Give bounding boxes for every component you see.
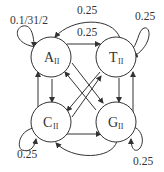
label-a-self: 0.1/31/2 xyxy=(10,14,48,26)
node-a: A II xyxy=(31,37,71,77)
node-t: T II xyxy=(96,37,136,77)
node-c-letter: C xyxy=(43,115,52,130)
label-g-self: 0.25 xyxy=(133,155,153,167)
node-a-subscript: II xyxy=(54,57,60,66)
state-diagram: A II T II C II G II 0.1/31/2 0.25 0.25 0… xyxy=(0,0,164,172)
edge-g-to-c xyxy=(56,141,117,156)
node-t-letter: T xyxy=(109,50,118,65)
edge-a-to-g xyxy=(72,63,103,103)
node-t-subscript: II xyxy=(118,57,124,66)
node-c-subscript: II xyxy=(53,122,59,131)
edge-a-self xyxy=(17,26,36,47)
node-g-letter: G xyxy=(108,115,118,130)
label-t-to-a: 0.25 xyxy=(77,4,97,16)
label-a-to-t: 0.25 xyxy=(77,26,97,38)
node-g-subscript: II xyxy=(118,122,124,131)
node-g: G II xyxy=(96,102,136,142)
label-t-self: 0.25 xyxy=(135,10,155,22)
node-c: C II xyxy=(31,102,71,142)
label-c-self: 0.25 xyxy=(17,148,37,160)
